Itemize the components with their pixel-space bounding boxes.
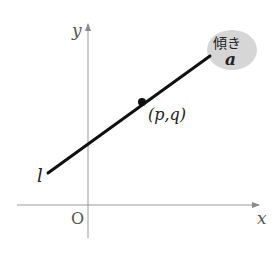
slope-value: a	[225, 49, 236, 69]
x-axis-label: x	[257, 208, 267, 228]
point-label: (p,q)	[148, 105, 186, 124]
y-axis-label: y	[71, 20, 82, 40]
origin-label: O	[71, 209, 84, 228]
coordinate-diagram: y x O l (p,q) 傾き a	[0, 0, 275, 260]
line-label: l	[37, 165, 43, 186]
diagram-canvas: y x O l (p,q) 傾き a	[0, 0, 275, 260]
point-pq	[138, 98, 146, 106]
